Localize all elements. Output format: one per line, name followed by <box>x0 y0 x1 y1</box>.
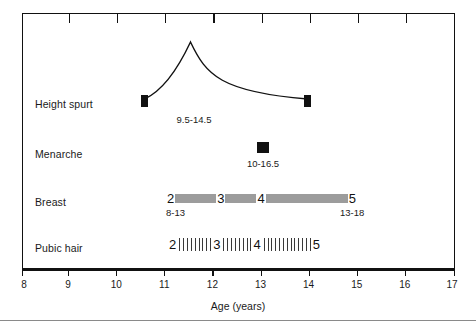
pubic-hair-stage-row: 2 3 4 5 <box>168 236 321 252</box>
breast-stage-4: 4 <box>256 192 265 205</box>
height-spurt-range: 9.5-14.5 <box>177 114 212 125</box>
x-tick-label-16: 16 <box>399 279 410 290</box>
pubic-hair-segment-2-3 <box>177 238 212 251</box>
x-tick-16 <box>405 269 406 276</box>
x-tick-label-10: 10 <box>111 279 122 290</box>
x-tick-label-12: 12 <box>207 279 218 290</box>
plot-frame <box>22 13 455 269</box>
x-tick-label-17: 17 <box>446 279 457 290</box>
x-tick-label-15: 15 <box>351 279 362 290</box>
menarche-marker <box>257 142 269 153</box>
top-tick-14 <box>310 14 311 23</box>
top-tick-13 <box>262 14 263 23</box>
breast-stage-3: 3 <box>216 192 225 205</box>
pubic-hair-stage-4: 4 <box>252 238 261 251</box>
puberty-sequence-figure: Height spurt 9.5-14.5 Menarche 10-16.5 B… <box>0 0 476 329</box>
x-tick-14 <box>309 269 310 276</box>
top-tick-9 <box>69 14 70 23</box>
breast-segment-4-5 <box>266 194 348 203</box>
x-tick-15 <box>357 269 358 276</box>
breast-left-range: 8-13 <box>166 207 185 218</box>
x-tick-8 <box>22 269 23 276</box>
breast-right-range: 13-18 <box>340 207 364 218</box>
x-tick-label-9: 9 <box>65 279 71 290</box>
x-tick-12 <box>212 269 213 276</box>
height-spurt-start-marker <box>141 95 148 107</box>
row-label-menarche: Menarche <box>35 148 83 160</box>
x-tick-9 <box>68 269 69 276</box>
breast-segment-3-4 <box>225 194 256 203</box>
pubic-hair-stage-2: 2 <box>168 238 177 251</box>
pubic-hair-segment-4-5 <box>262 238 312 251</box>
breast-stage-row: 2 3 4 5 <box>166 190 357 206</box>
breast-segment-2-3 <box>175 194 216 203</box>
menarche-range: 10-16.5 <box>247 158 279 169</box>
pubic-hair-segment-3-4 <box>221 238 252 251</box>
row-label-height-spurt: Height spurt <box>35 98 93 110</box>
top-tick-16 <box>406 14 407 23</box>
x-tick-11 <box>164 269 165 276</box>
x-tick-13 <box>261 269 262 276</box>
bottom-divider <box>0 320 476 321</box>
top-tick-15 <box>358 14 359 23</box>
x-tick-17 <box>454 269 455 276</box>
breast-stage-5: 5 <box>348 192 357 205</box>
x-tick-label-13: 13 <box>255 279 266 290</box>
x-tick-label-14: 14 <box>303 279 314 290</box>
x-axis-title: Age (years) <box>0 300 476 312</box>
height-spurt-end-marker <box>304 95 311 107</box>
x-tick-10 <box>116 269 117 276</box>
top-tick-10 <box>117 14 118 23</box>
row-label-breast: Breast <box>35 196 66 208</box>
x-axis-line <box>22 269 455 271</box>
top-tick-12 <box>213 14 214 23</box>
pubic-hair-stage-3: 3 <box>212 238 221 251</box>
pubic-hair-stage-5: 5 <box>312 238 321 251</box>
x-tick-label-8: 8 <box>21 279 27 290</box>
row-label-pubic-hair: Pubic hair <box>35 242 83 254</box>
breast-stage-2: 2 <box>166 192 175 205</box>
top-tick-11 <box>165 14 166 23</box>
x-tick-label-11: 11 <box>159 279 169 290</box>
